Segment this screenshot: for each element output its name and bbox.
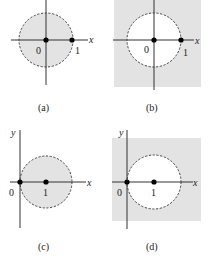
point-one	[43, 179, 48, 184]
caption: (b)	[146, 102, 158, 114]
point-origin	[17, 179, 22, 184]
caption: (d)	[146, 241, 158, 253]
label-zero: 0	[144, 44, 149, 55]
point-origin	[151, 37, 156, 42]
panel-b: 0 1 x (b)	[113, 0, 201, 114]
label-zero: 0	[117, 187, 122, 198]
label-one: 1	[43, 187, 48, 198]
label-zero: 0	[36, 45, 41, 56]
point-one	[69, 37, 74, 42]
x-axis-label: x	[192, 177, 198, 188]
caption: (c)	[38, 241, 49, 253]
point-one	[178, 37, 183, 42]
point-origin	[43, 37, 48, 42]
point-one	[151, 179, 156, 184]
label-one: 1	[183, 47, 188, 58]
label-one: 1	[151, 187, 156, 198]
point-origin	[124, 179, 129, 184]
x-axis-label: x	[88, 34, 94, 45]
panel-d: y 0 1 x (d)	[112, 127, 201, 253]
x-axis-label: x	[194, 35, 200, 46]
figure: 0 1 x (a) 0 1 x (b) y 0 1 x (c)	[0, 0, 208, 260]
panel-c: y 0 1 x (c)	[9, 127, 92, 253]
x-axis-label: x	[86, 177, 92, 188]
label-one: 1	[75, 45, 80, 56]
y-axis-label: y	[118, 127, 124, 138]
panel-a: 0 1 x (a)	[11, 0, 94, 114]
y-axis-label: y	[10, 127, 16, 138]
caption: (a)	[38, 102, 49, 114]
label-zero: 0	[9, 187, 14, 198]
